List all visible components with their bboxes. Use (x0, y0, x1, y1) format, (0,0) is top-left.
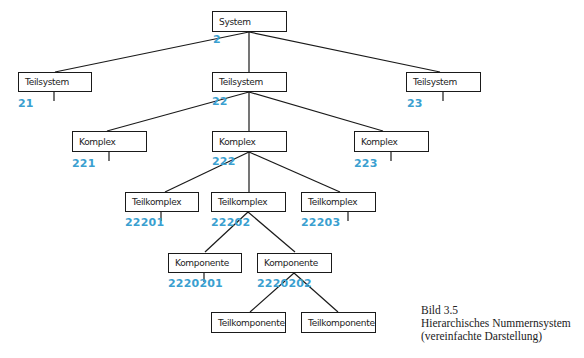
node-teilkomponente-2: Teilkomponente (301, 312, 376, 333)
node-number-23: 23 (407, 97, 423, 110)
node-komplex-223: Komplex (354, 131, 429, 152)
node-teilsystem-21: Teilsystem (18, 72, 92, 92)
node-komponente-2220202: Komponente (257, 253, 332, 273)
node-teilsystem-23: Teilsystem (406, 72, 481, 92)
node-teilkomplex-22202: Teilkomplex (211, 192, 286, 212)
node-teilsystem-22: Teilsystem (212, 72, 287, 92)
node-komplex-221: Komplex (72, 131, 147, 152)
caption-subtitle: (vereinfachte Darstellung) (421, 330, 571, 343)
node-number-223: 223 (354, 157, 378, 170)
node-number-22203: 22203 (301, 216, 340, 229)
figure-caption: Bild 3.5 Hierarchisches Nummernsystem (v… (421, 304, 571, 343)
caption-title: Hierarchisches Nummernsystem (421, 317, 571, 330)
node-komplex-222: Komplex (212, 131, 287, 152)
node-number-system: 2 (213, 33, 221, 46)
node-number-2220201: 2220201 (168, 277, 223, 290)
node-teilkomplex-22203: Teilkomplex (301, 192, 376, 212)
node-komponente-2220201: Komponente (168, 253, 242, 273)
node-number-221: 221 (72, 157, 96, 170)
node-number-22201: 22201 (125, 216, 164, 229)
caption-figure-number: Bild 3.5 (421, 304, 571, 317)
node-number-21: 21 (18, 97, 34, 110)
node-teilkomponente-1: Teilkomponente (211, 312, 286, 333)
node-teilkomplex-22201: Teilkomplex (125, 192, 199, 212)
node-number-22: 22 (212, 95, 228, 108)
node-number-222: 222 (212, 155, 236, 168)
node-number-2220202: 2220202 (257, 277, 312, 290)
node-number-22202: 22202 (211, 216, 250, 229)
node-system: System (212, 11, 287, 32)
